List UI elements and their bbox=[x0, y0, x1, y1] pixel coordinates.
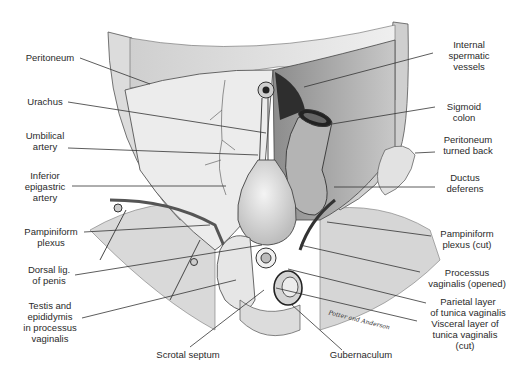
label-sigmoid-colon: Sigmoid colon bbox=[438, 101, 490, 123]
label-visceral-layer: Visceral layer of tunica vaginalis (cut) bbox=[420, 318, 510, 351]
label-urachus: Urachus bbox=[22, 96, 68, 107]
label-pampiniform-plexus-cut: Pampiniform plexus (cut) bbox=[432, 228, 502, 250]
label-processus-vaginalis-opened: Processus vaginalis (opened) bbox=[420, 267, 514, 289]
label-testis-and-epididymis: Testis and epididymis in processus vagin… bbox=[18, 300, 82, 344]
label-gubernaculum: Gubernaculum bbox=[326, 349, 396, 360]
label-peritoneum: Peritoneum bbox=[20, 52, 80, 63]
label-inferior-epigastric-artery: Inferior epigastric artery bbox=[20, 170, 70, 203]
label-scrotal-septum: Scrotal septum bbox=[148, 349, 228, 360]
label-umbilical-artery: Umbilical artery bbox=[22, 130, 68, 152]
label-internal-spermatic-vessels: Internal spermatic vessels bbox=[438, 39, 500, 72]
label-ductus-deferens: Ductus deferens bbox=[440, 172, 490, 194]
label-dorsal-lig-of-penis: Dorsal lig. of penis bbox=[24, 264, 74, 286]
label-parietal-layer: Parietal layer of tunica vaginalis bbox=[420, 296, 516, 318]
label-peritoneum-turned-back: Peritoneum turned back bbox=[436, 134, 500, 156]
label-pampiniform-plexus: Pampiniform plexus bbox=[20, 226, 82, 248]
